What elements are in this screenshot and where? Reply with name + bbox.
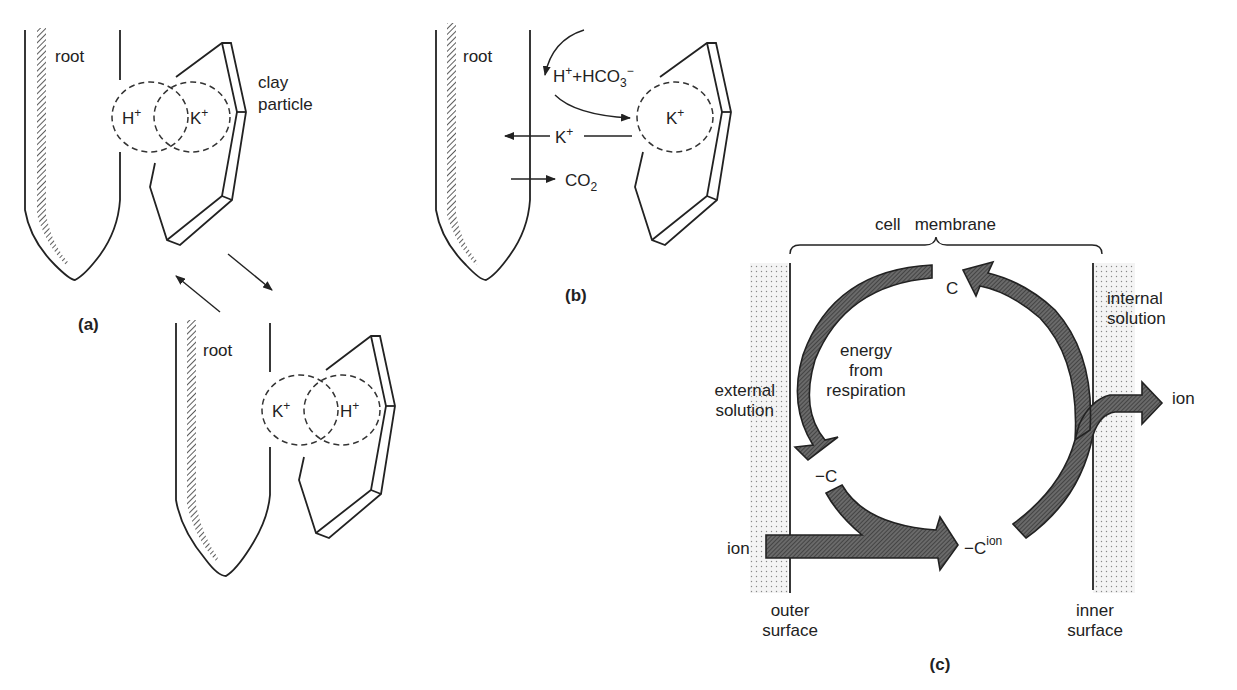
root-label: root	[463, 47, 493, 66]
root-label: root	[203, 341, 233, 360]
h-ion-label: H+	[122, 106, 141, 128]
membrane-label: cell membrane	[875, 215, 996, 234]
co2-label: CO2	[565, 171, 598, 194]
ion-in-label: ion	[727, 539, 750, 558]
root-label: root	[55, 47, 85, 66]
ion-uptake-arrow	[766, 485, 958, 570]
carrier-ion-complex-label: −Cion	[964, 534, 1002, 558]
external-label-1: external	[715, 381, 775, 400]
clay-particle	[150, 43, 246, 245]
panel-a-caption: (a)	[78, 315, 99, 334]
internal-label-2: solution	[1107, 309, 1166, 328]
panel-b: root H++HCO3− K+ K+ CO2 (b)	[436, 23, 731, 305]
clay-particle	[635, 43, 731, 245]
energy-line-1: energy	[840, 341, 892, 360]
inner-surface-label-1: inner	[1076, 601, 1114, 620]
energy-line-2: from	[849, 361, 883, 380]
k-ion-label: K+	[666, 106, 684, 128]
clay-particle	[299, 336, 395, 538]
k-ion-label: K+	[190, 106, 208, 128]
panel-c-caption: (c)	[930, 655, 951, 674]
panel-b-caption: (b)	[565, 286, 587, 305]
h-ion-label: H+	[340, 399, 359, 421]
external-label-2: solution	[715, 401, 774, 420]
inner-surface-label-2: surface	[1067, 621, 1123, 640]
exchange-arrow-up	[176, 276, 220, 312]
curved-arrow-to-k	[555, 95, 630, 118]
panel-a-top: root clay particle H+ K+	[25, 28, 313, 280]
exchange-arrow-down	[228, 254, 272, 290]
k-ion-label: K+	[272, 399, 290, 421]
outer-surface-label-1: outer	[771, 601, 810, 620]
panel-a-bottom: root K+ H+	[176, 320, 395, 576]
outer-surface-label-2: surface	[762, 621, 818, 640]
clay-label-2: particle	[258, 95, 313, 114]
ion-out-label: ion	[1172, 389, 1195, 408]
k-moving-label: K+	[555, 125, 573, 147]
reaction-label: H++HCO3−	[553, 64, 634, 90]
clay-label-1: clay	[258, 73, 289, 92]
ion-uptake-diagram: root clay particle H+ K+ (a) root	[0, 0, 1237, 690]
internal-label-1: internal	[1107, 289, 1163, 308]
membrane-brace	[790, 237, 1102, 254]
neg-carrier-label: −C	[815, 467, 837, 486]
energy-line-3: respiration	[826, 381, 905, 400]
panel-c: cell membrane C energy from respiration …	[715, 215, 1195, 674]
carrier-label: C	[946, 279, 958, 298]
